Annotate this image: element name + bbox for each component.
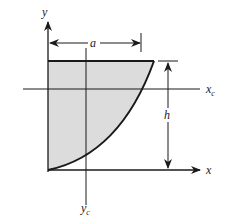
centroid-x-axis-label: xc <box>205 82 215 98</box>
shaded-area <box>48 61 154 170</box>
x-axis-label: x <box>205 163 212 177</box>
diagram-canvas: y x a h xc yc <box>0 0 226 220</box>
width-dimension-label: a <box>90 36 96 50</box>
centroid-y-axis-label: yc <box>80 201 90 217</box>
y-axis-label: y <box>41 5 48 19</box>
height-dimension-label: h <box>164 108 170 122</box>
